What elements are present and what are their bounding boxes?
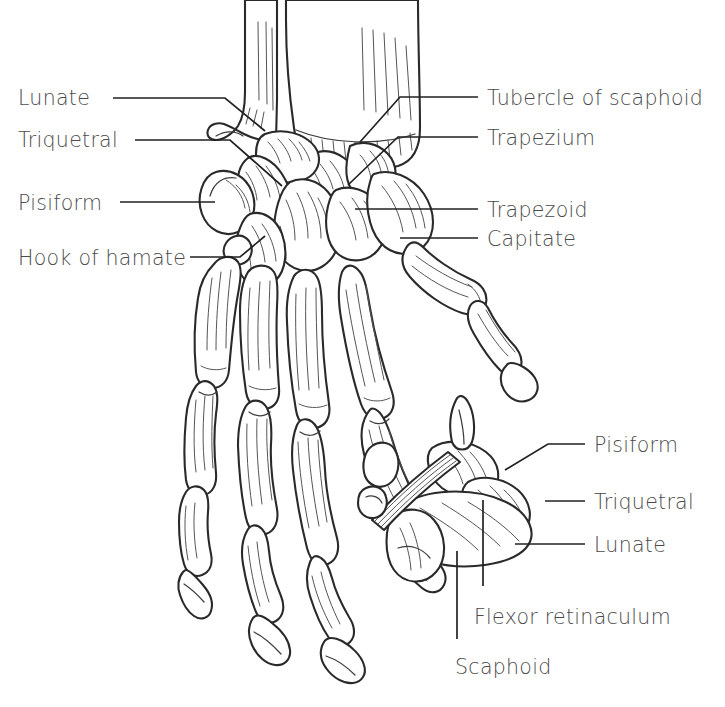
phalanx-3-proximal [292,419,338,565]
leader-pisiform-inset [505,444,585,470]
label-pisiform-left: Pisiform [18,193,102,214]
label-lunate-inset: Lunate [594,535,666,556]
label-triquetral-left: Triquetral [18,130,118,151]
phalanx-4-distal [249,616,290,666]
label-trapezium: Trapezium [487,128,595,149]
label-flexor-retinaculum: Flexor retinaculum [474,607,671,628]
phalanx-3-distal [321,638,365,683]
label-trapezoid: Trapezoid [487,200,588,221]
label-capitate: Capitate [487,229,576,250]
phalanx-4-middle [242,525,283,622]
metacarpal-5 [195,257,241,388]
inset-hamate-hook-fragment [358,486,387,518]
label-pisiform-inset: Pisiform [594,435,678,456]
label-tubercle-of-scaphoid: Tubercle of scaphoid [487,88,703,109]
phalanx-3-middle [307,556,354,646]
metacarpal-bones-group [195,242,487,428]
inset-hamate-fragment [363,443,398,487]
inset-scaphoid-bone [387,510,445,582]
metacarpal-3 [287,270,330,429]
phalanx-thumb-distal [501,363,538,402]
anatomy-figure-page: Lunate Triquetral Pisiform Hook of hamat… [0,0,725,707]
label-triquetral-inset: Triquetral [594,492,694,513]
phalanx-5-distal [178,570,212,618]
label-hook-of-hamate: Hook of hamate [18,248,186,269]
phalanx-5-middle [179,486,212,576]
label-lunate-left: Lunate [18,88,90,109]
label-scaphoid: Scaphoid [455,657,552,678]
